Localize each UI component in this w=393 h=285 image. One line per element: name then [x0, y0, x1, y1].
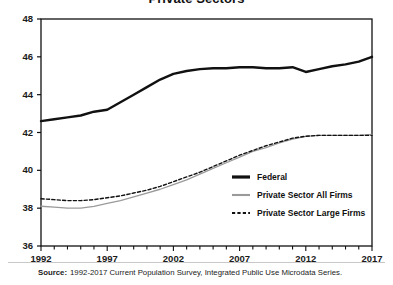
source-divider [8, 262, 385, 263]
chart-legend: FederalPrivate Sector All FirmsPrivate S… [231, 168, 365, 222]
y-tick-label: 40 [3, 164, 33, 175]
legend-swatch-2 [231, 208, 251, 218]
plot-area [0, 0, 393, 285]
y-tick-label: 44 [3, 89, 33, 100]
source-note: Source:1992-2017 Current Population Surv… [38, 268, 388, 277]
legend-label: Private Sector All Firms [257, 190, 353, 200]
chart-figure: Private Sectors 36384042444648 199219972… [0, 0, 393, 285]
y-tick-label: 38 [3, 202, 33, 213]
y-tick-label: 48 [3, 13, 33, 24]
legend-item: Federal [231, 168, 365, 186]
source-text: 1992-2017 Current Population Survey, Int… [70, 268, 342, 277]
legend-item: Private Sector Large Firms [231, 204, 365, 222]
legend-swatch-0 [231, 172, 251, 182]
series-line-0 [41, 57, 372, 121]
legend-item: Private Sector All Firms [231, 186, 365, 204]
y-tick-label: 46 [3, 51, 33, 62]
y-tick-label: 36 [3, 240, 33, 251]
y-tick-label: 42 [3, 127, 33, 138]
source-label: Source: [38, 268, 67, 277]
legend-swatch-1 [231, 190, 251, 200]
legend-label: Private Sector Large Firms [257, 208, 365, 218]
legend-label: Federal [257, 172, 287, 182]
